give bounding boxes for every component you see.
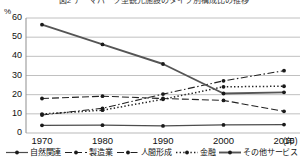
data-point (101, 123, 105, 127)
data-point (40, 23, 44, 27)
data-point (161, 62, 165, 66)
legend-item[interactable]: 人間形成 (117, 148, 172, 157)
chart-legend: 自然関連製造業人間形成金融その他サービス (0, 146, 308, 159)
data-point (101, 94, 105, 98)
data-point (101, 108, 105, 112)
data-point (161, 97, 165, 101)
legend-label: 製造業 (89, 148, 112, 157)
series-4 (40, 23, 286, 96)
legend-swatch-solid-thick (219, 148, 241, 157)
legend-swatch-solid (6, 148, 28, 157)
data-point (40, 112, 44, 116)
data-point (222, 123, 226, 127)
data-point (40, 123, 44, 127)
data-point (282, 69, 286, 73)
series-3 (40, 84, 286, 116)
legend-label: 金融 (200, 148, 216, 157)
data-point (282, 123, 286, 127)
series-0 (40, 123, 286, 128)
data-point (222, 85, 226, 89)
legend-item[interactable]: 金融 (176, 148, 216, 157)
legend-swatch-dotted (176, 148, 198, 157)
legend-item[interactable]: 製造業 (65, 148, 112, 157)
plot-area (0, 0, 308, 159)
data-point (101, 43, 105, 47)
legend-item[interactable]: 自然関連 (6, 148, 61, 157)
data-point (222, 99, 226, 103)
legend-swatch-dash-dot (117, 148, 139, 157)
legend-label: 自然関連 (30, 148, 61, 157)
legend-label: 人間形成 (141, 148, 172, 157)
legend-swatch-dashed (65, 148, 87, 157)
legend-label: その他サービス (243, 148, 298, 157)
data-point (161, 124, 165, 128)
data-point (40, 97, 44, 101)
data-point (282, 90, 286, 94)
legend-item[interactable]: その他サービス (219, 148, 298, 157)
chart-container: 図2 テーマパーク型観光施設のタイプ別構成比の推移 % 010203040506… (0, 0, 308, 159)
data-point (222, 92, 226, 96)
data-point (282, 109, 286, 113)
series-line (42, 25, 284, 94)
data-point (161, 92, 165, 96)
series-1 (40, 94, 286, 113)
data-point (282, 84, 286, 88)
data-point (222, 79, 226, 83)
